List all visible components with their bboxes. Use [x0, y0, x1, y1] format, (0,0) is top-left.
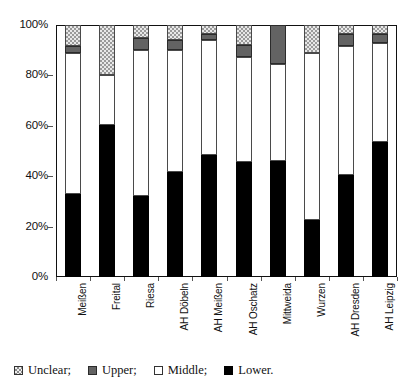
bar-column[interactable] [338, 25, 354, 277]
bar-segment-unclear[interactable] [338, 25, 354, 34]
legend-label: Upper; [102, 364, 137, 377]
bar-segment-middle[interactable] [372, 43, 388, 143]
x-axis-label: AH Leipzig [384, 283, 395, 355]
bar-segment-lower[interactable] [99, 125, 115, 277]
legend-item[interactable]: Middle; [154, 364, 208, 377]
bar-segment-unclear[interactable] [201, 25, 217, 34]
x-axis-label: Mittweida [282, 283, 293, 355]
bar-stack [270, 25, 286, 277]
bars-layer [56, 25, 397, 277]
x-axis-label: AH Dresden [350, 283, 361, 355]
x-axis-label: AH Döbeln [179, 283, 190, 355]
y-tick-label: 80% [26, 69, 48, 81]
y-tick-label: 20% [26, 221, 48, 233]
legend-item[interactable]: Unclear; [14, 364, 71, 377]
stacked-bar-chart: 0%20%40%60%80%100% MeißenFreitalRiesaAH … [0, 0, 420, 391]
legend-label: Middle; [168, 364, 208, 377]
x-axis-label: Freital [111, 283, 122, 355]
bar-segment-unclear[interactable] [65, 25, 81, 46]
unclear-swatch-icon [14, 366, 23, 375]
bar-stack [65, 25, 81, 277]
bar-segment-upper[interactable] [201, 34, 217, 40]
bar-column[interactable] [65, 25, 81, 277]
bar-segment-lower[interactable] [133, 196, 149, 277]
middle-swatch-icon [154, 366, 163, 375]
legend-label: Lower. [238, 364, 273, 377]
x-axis-label: Riesa [145, 283, 156, 355]
bar-segment-middle[interactable] [65, 53, 81, 194]
legend-label: Unclear; [28, 364, 71, 377]
bar-column[interactable] [304, 25, 320, 277]
x-axis-ticks [56, 277, 397, 282]
bar-segment-lower[interactable] [270, 161, 286, 277]
bar-segment-unclear[interactable] [236, 25, 252, 45]
legend-item[interactable]: Upper; [88, 364, 137, 377]
bar-segment-middle[interactable] [167, 50, 183, 172]
x-tick-mark [227, 277, 228, 281]
bar-stack [201, 25, 217, 277]
bar-column[interactable] [270, 25, 286, 277]
bar-column[interactable] [236, 25, 252, 277]
bar-segment-lower[interactable] [201, 155, 217, 277]
y-axis: 0%20%40%60%80%100% [0, 17, 52, 285]
bar-segment-middle[interactable] [133, 50, 149, 196]
bar-stack [133, 25, 149, 277]
bar-segment-unclear[interactable] [99, 25, 115, 75]
bar-segment-upper[interactable] [270, 25, 286, 64]
x-tick-mark [295, 277, 296, 281]
x-tick-mark [90, 277, 91, 281]
bar-segment-middle[interactable] [99, 75, 115, 124]
y-tick-mark [47, 227, 53, 228]
x-axis-label: AH Oschatz [248, 283, 259, 355]
bar-stack [236, 25, 252, 277]
bar-segment-unclear[interactable] [372, 25, 388, 34]
y-tick-label: 60% [26, 120, 48, 132]
bar-stack [338, 25, 354, 277]
y-tick-label: 0% [32, 271, 48, 283]
y-tick-mark [47, 176, 53, 177]
bar-segment-lower[interactable] [236, 162, 252, 277]
bar-segment-lower[interactable] [65, 194, 81, 277]
x-tick-mark [56, 277, 57, 281]
legend-item[interactable]: Lower. [224, 364, 273, 377]
bar-segment-unclear[interactable] [133, 25, 149, 38]
bar-column[interactable] [167, 25, 183, 277]
bar-segment-lower[interactable] [304, 220, 320, 277]
bar-segment-middle[interactable] [270, 64, 286, 161]
bar-stack [167, 25, 183, 277]
bar-segment-upper[interactable] [133, 38, 149, 51]
bar-stack [304, 25, 320, 277]
x-axis-label: Wurzen [316, 283, 327, 355]
y-tick-label: 40% [26, 170, 48, 182]
x-tick-mark [363, 277, 364, 281]
bar-segment-middle[interactable] [201, 40, 217, 155]
x-tick-mark [158, 277, 159, 281]
bar-segment-unclear[interactable] [167, 25, 183, 40]
bar-segment-upper[interactable] [236, 45, 252, 56]
bar-segment-lower[interactable] [167, 172, 183, 277]
bar-segment-middle[interactable] [236, 57, 252, 163]
x-axis-label: Meißen [77, 283, 88, 355]
bar-segment-upper[interactable] [167, 40, 183, 50]
bar-column[interactable] [372, 25, 388, 277]
x-axis-labels: MeißenFreitalRiesaAH DöbelnAH MeißenAH O… [56, 283, 397, 355]
bar-segment-middle[interactable] [338, 46, 354, 175]
bar-segment-lower[interactable] [372, 142, 388, 277]
bar-segment-unclear[interactable] [304, 25, 320, 53]
bar-column[interactable] [133, 25, 149, 277]
bar-column[interactable] [99, 25, 115, 277]
x-tick-mark [124, 277, 125, 281]
bar-segment-upper[interactable] [338, 34, 354, 47]
x-tick-mark [261, 277, 262, 281]
y-tick-label: 100% [19, 19, 48, 31]
y-tick-mark [47, 126, 53, 127]
upper-swatch-icon [88, 366, 97, 375]
bar-segment-middle[interactable] [304, 53, 320, 221]
x-tick-mark [192, 277, 193, 281]
y-tick-mark [47, 75, 53, 76]
bar-segment-upper[interactable] [65, 46, 81, 52]
bar-stack [99, 25, 115, 277]
bar-segment-upper[interactable] [372, 34, 388, 43]
bar-segment-lower[interactable] [338, 175, 354, 277]
bar-column[interactable] [201, 25, 217, 277]
